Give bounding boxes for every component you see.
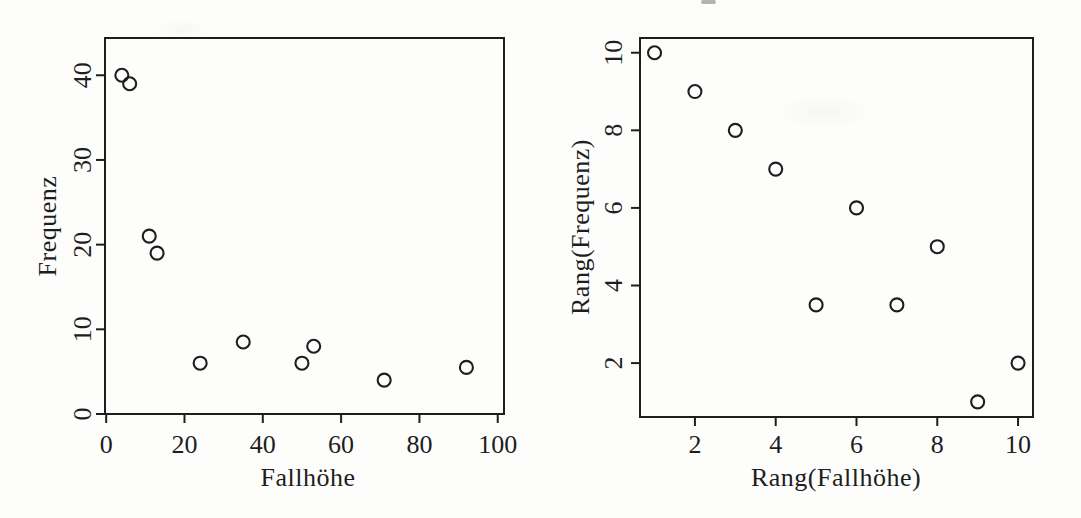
- x-axis-tick-label: 100: [478, 430, 517, 459]
- scatter-plots-canvas: 020406080100010203040246810246810: [0, 0, 1081, 518]
- y-axis-tick-label: 4: [599, 279, 628, 292]
- x-axis-tick-label: 6: [850, 430, 863, 459]
- data-point: [810, 298, 823, 311]
- x-axis-tick-label: 80: [406, 430, 432, 459]
- x-axis-tick-label: 10: [1005, 430, 1031, 459]
- data-point: [688, 85, 701, 98]
- y-axis-tick-label: 30: [68, 147, 97, 173]
- data-point: [890, 298, 903, 311]
- y-axis-tick-label: 2: [599, 357, 628, 370]
- x-axis-tick-label: 2: [688, 430, 701, 459]
- data-point: [143, 230, 156, 243]
- scan-artifact: [150, 20, 210, 38]
- data-point: [378, 374, 391, 387]
- y-axis-tick-label: 10: [68, 316, 97, 342]
- y-axis-tick-label: 8: [599, 124, 628, 137]
- x-axis-tick-label: 0: [100, 430, 113, 459]
- data-point: [850, 201, 863, 214]
- y-axis-tick-label: 10: [599, 40, 628, 66]
- x-axis-tick-label: 8: [931, 430, 944, 459]
- y-axis-tick-label: 6: [599, 201, 628, 214]
- data-point: [194, 357, 207, 370]
- data-point: [931, 240, 944, 253]
- x-axis-label-fallhoehe: Fallhöhe: [261, 463, 356, 493]
- data-point: [151, 247, 164, 260]
- y-axis-tick-label: 40: [68, 62, 97, 88]
- data-point: [648, 46, 661, 59]
- y-axis-tick-label: 0: [68, 408, 97, 421]
- data-point: [237, 336, 250, 349]
- x-axis-label-rang-fallhoehe: Rang(Fallhöhe): [751, 463, 921, 493]
- x-axis-tick-label: 4: [769, 430, 782, 459]
- scatter-panel-0: 020406080100010203040: [68, 38, 518, 459]
- figure-rank-correlation-scatterplots: 020406080100010203040246810246810 Freque…: [0, 0, 1081, 518]
- x-axis-tick-label: 40: [250, 430, 276, 459]
- data-point: [460, 361, 473, 374]
- data-point: [307, 340, 320, 353]
- x-axis-tick-label: 20: [171, 430, 197, 459]
- data-point: [971, 395, 984, 408]
- data-point: [1012, 357, 1025, 370]
- scan-artifact: [701, 0, 716, 4]
- data-point: [295, 357, 308, 370]
- y-axis-tick-label: 20: [68, 232, 97, 258]
- y-axis-label-frequenz: Frequenz: [33, 176, 63, 277]
- data-point: [123, 77, 136, 90]
- x-axis-tick-label: 60: [328, 430, 354, 459]
- scan-artifact: [770, 95, 880, 129]
- data-point: [729, 124, 742, 137]
- data-point: [769, 163, 782, 176]
- data-point: [115, 69, 128, 82]
- y-axis-label-rang-frequenz: Rang(Frequenz): [566, 139, 596, 315]
